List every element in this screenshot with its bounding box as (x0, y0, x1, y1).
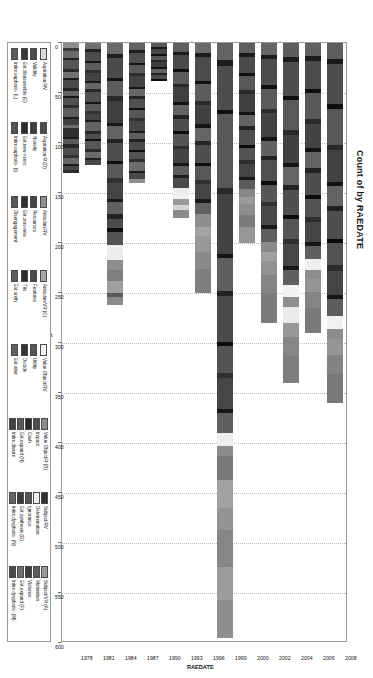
bar-segment (217, 567, 233, 600)
legend-item[interactable]: Tits (20, 270, 29, 340)
category-tick-2004: 2004 (301, 655, 313, 661)
legend-item[interactable]: Novelty (30, 122, 39, 192)
legend-item[interactable]: Impact (34, 418, 41, 488)
bar-segment (173, 43, 189, 52)
legend-item[interactable]: Subject/VR (A) (42, 566, 49, 636)
legend-item[interactable]: Est.zero-new (20, 196, 29, 266)
legend-item[interactable]: Decide (20, 344, 29, 414)
bar-segment (239, 43, 255, 53)
bar-1978[interactable] (63, 43, 79, 173)
bar-2008[interactable] (327, 43, 343, 403)
value-tick-mark (58, 392, 61, 393)
bar-2004[interactable] (283, 43, 299, 383)
legend-item[interactable]: Value Object/RV (39, 344, 48, 414)
value-tick-250: 250 (55, 294, 64, 300)
legend-swatch-icon (21, 122, 28, 134)
plot-area (61, 42, 347, 642)
legend-label: Est.zero-new (22, 210, 27, 237)
bar-2000[interactable] (239, 43, 255, 243)
value-tick-500: 500 (55, 544, 64, 550)
bar-segment (129, 65, 145, 73)
legend-label: Motivation (35, 580, 40, 601)
value-tick-mark (58, 142, 61, 143)
legend-item[interactable]: Violence (26, 566, 33, 636)
bar-segment (239, 115, 255, 126)
bar-1987[interactable] (129, 43, 145, 183)
bar-segment (305, 173, 321, 195)
legend-swatch-icon (10, 492, 17, 504)
bar-1981[interactable] (85, 43, 101, 165)
legend-item[interactable]: Est.expand (H) (18, 418, 25, 488)
bar-segment (173, 119, 189, 131)
legend-item[interactable]: Aspiration/R (D) (39, 122, 48, 192)
bar-segment (239, 164, 255, 177)
bar-2006[interactable] (305, 43, 321, 333)
category-tick-1981: 1981 (103, 655, 115, 661)
bar-segment (85, 52, 101, 61)
legend-item[interactable]: Est.new->zero (20, 122, 29, 192)
legend-item[interactable]: Validity (30, 48, 39, 118)
bar-segment (261, 89, 277, 109)
legend-item[interactable]: Utility (30, 344, 39, 414)
legend-swatch-icon (21, 196, 28, 208)
bar-segment (239, 94, 255, 112)
bar-segment (107, 126, 123, 139)
bar-1984[interactable] (107, 43, 123, 305)
bar-segment (261, 113, 277, 137)
legend-item[interactable]: Intim.euphoric- (I) (10, 122, 19, 192)
legend-label: Est.expand (H) (19, 432, 24, 463)
bar-segment (107, 232, 123, 245)
legend-swatch-icon (11, 196, 18, 208)
legend-label: Ignorance (27, 506, 32, 526)
bar-1993[interactable] (173, 43, 189, 218)
bar-1996[interactable] (195, 43, 211, 293)
legend-item[interactable]: Features (30, 270, 39, 340)
bar-segment (217, 413, 233, 433)
legend-item[interactable]: Resources (30, 196, 39, 266)
legend-label: Est.alter (12, 358, 17, 375)
legend-item[interactable]: Motivation (34, 566, 41, 636)
bar-segment (305, 199, 321, 217)
legend-column-col-h: Aspiration/RVValidityEst.disassemble (E)… (10, 46, 48, 120)
legend-item[interactable]: Subject/RV (42, 492, 49, 562)
legend-item[interactable]: Determination (34, 492, 41, 562)
legend-item[interactable]: Est.expand (F) (18, 566, 25, 636)
legend-swatch-icon (42, 418, 49, 430)
bar-segment (173, 87, 189, 102)
bar-segment (261, 160, 277, 181)
legend-item[interactable]: Est.disassemble (E) (20, 48, 29, 118)
category-tick-1996: 1996 (213, 655, 225, 661)
legend-column-col-g: Aspiration/R (D)NoveltyEst.new->zeroInti… (10, 120, 48, 194)
legend-item[interactable]: Est.alter (10, 344, 19, 414)
legend-item[interactable]: Est.synthesis (G) (18, 492, 25, 562)
bar-1990[interactable] (151, 43, 167, 81)
legend-item[interactable]: Antaclan/VR (C) (39, 270, 48, 340)
category-tick-2008: 2008 (345, 655, 357, 661)
bar-segment (305, 124, 321, 148)
legend-label: Intim.euphoric- (L) (12, 62, 17, 99)
bar-2002[interactable] (261, 43, 277, 323)
legend-label: Novelty (32, 136, 37, 151)
legend-swatch-icon (30, 270, 37, 282)
legend-label: Aspiration/R (D) (41, 136, 46, 169)
legend-item[interactable]: Disengagement (10, 196, 19, 266)
legend-swatch-icon (40, 48, 47, 60)
legend-item[interactable]: Antaclan/RV (39, 196, 48, 266)
legend-swatch-icon (11, 48, 18, 60)
legend-item[interactable]: Aspiration/RV (39, 48, 48, 118)
legend-item[interactable]: Intim.dysphoric- (M) (10, 566, 17, 636)
bar-1999[interactable] (217, 43, 233, 638)
legend-item[interactable]: Intim.disarm (10, 418, 17, 488)
legend-item[interactable]: Intim.dysphoric- (N) (10, 492, 17, 562)
category-tick-1984: 1984 (125, 655, 137, 661)
legend-item[interactable]: Value Object/R (B) (42, 418, 49, 488)
legend-item[interactable]: Intim.euphoric- (L) (10, 48, 19, 118)
legend-item[interactable]: Cash (26, 418, 33, 488)
legend-item[interactable]: Ignorance (26, 492, 33, 562)
legend-item[interactable]: Est.smth (10, 270, 19, 340)
bar-segment (195, 105, 211, 125)
bar-segment (239, 189, 255, 197)
category-tick-1993: 1993 (191, 655, 203, 661)
legend-swatch-icon (40, 196, 47, 208)
bar-segment (195, 227, 211, 237)
